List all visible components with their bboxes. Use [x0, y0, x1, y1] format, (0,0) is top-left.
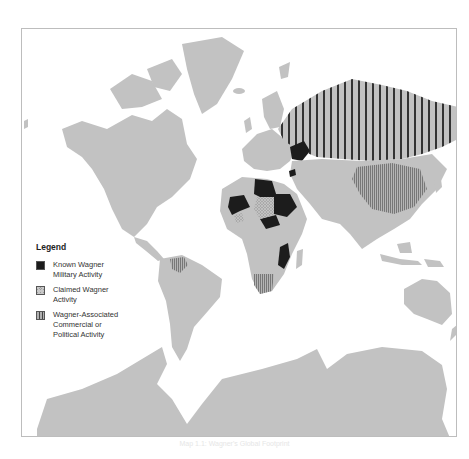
legend-label-line: Commercial or [53, 320, 118, 330]
map-caption: Map 1.1: Wagner's Global Footprint [0, 440, 469, 447]
north-america [62, 109, 197, 237]
legend-item-associated: Wagner-Associated Commercial or Politica… [36, 310, 146, 340]
legend-label-line: Military Activity [53, 270, 104, 280]
australia [404, 279, 452, 325]
legend: Legend Known Wagner Military Activity Cl… [36, 242, 146, 345]
legend-label-line: Activity [53, 295, 109, 305]
south-america [158, 255, 222, 361]
legend-label-line: Known Wagner [53, 260, 104, 270]
solid-black-swatch-icon [36, 261, 45, 270]
greenland [182, 37, 244, 114]
legend-item-known: Known Wagner Military Activity [36, 260, 146, 280]
world-map [22, 29, 457, 437]
legend-label-line: Claimed Wagner [53, 285, 109, 295]
legend-label-line: Political Activity [53, 330, 118, 340]
legend-title: Legend [36, 242, 146, 252]
vertical-stripe-swatch-icon [36, 311, 45, 320]
south-africa-associated [254, 274, 274, 294]
madagascar [296, 249, 303, 269]
antarctica [37, 347, 450, 437]
map-frame: Legend Known Wagner Military Activity Cl… [21, 28, 457, 437]
legend-label-line: Wagner-Associated [53, 310, 118, 320]
crosshatch-swatch-icon [36, 286, 45, 295]
legend-item-claimed: Claimed Wagner Activity [36, 285, 146, 305]
